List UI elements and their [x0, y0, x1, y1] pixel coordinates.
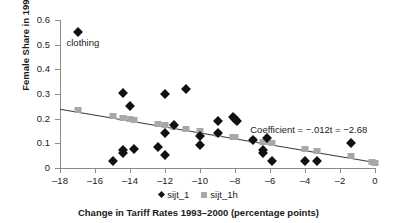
x-axis-title: Change in Tariff Rates 1993–2000 (percen… — [0, 207, 397, 218]
data-point-sijt_1h — [268, 140, 275, 146]
legend-label: sijt_1 — [167, 189, 189, 200]
data-point-sijt_1h — [183, 126, 190, 132]
chart-figure: Female Share in 1990 00.10.20.30.40.50.6… — [0, 0, 397, 223]
data-point-sijt_1h — [347, 153, 354, 159]
annotation-clothing: clothing — [67, 37, 100, 48]
data-point-sijt_1h — [314, 148, 321, 154]
data-point-sijt_1h — [372, 160, 379, 166]
square-marker-icon — [201, 192, 207, 198]
diamond-marker-icon — [158, 191, 165, 198]
legend-item-sijt-1h: sijt_1h — [201, 189, 237, 200]
data-point-sijt_1h — [120, 115, 127, 121]
legend-item-sijt-1: sijt_1 — [159, 189, 189, 200]
data-point-sijt_1h — [130, 117, 137, 123]
chart-legend: sijt_1 sijt_1h — [0, 189, 397, 200]
data-point-sijt_1h — [155, 121, 162, 127]
annotation-coefficient: Coefficient = −.012t = −2.68 — [250, 124, 367, 135]
data-point-sijt_1h — [74, 107, 81, 113]
data-point-sijt_1h — [302, 146, 309, 152]
data-point-sijt_1h — [232, 134, 239, 140]
legend-label: sijt_1h — [210, 189, 237, 200]
data-point-sijt_1h — [109, 113, 116, 119]
